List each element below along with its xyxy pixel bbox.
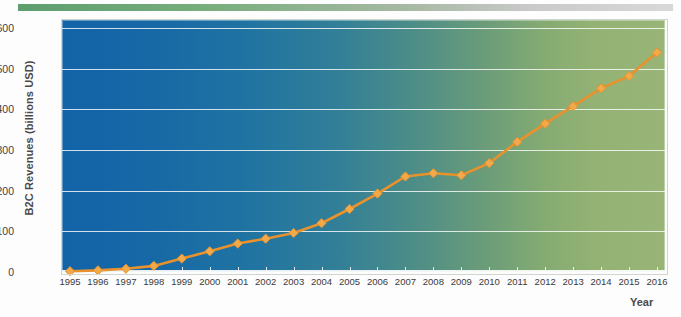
x-axis-title: Year (630, 296, 653, 308)
data-point-marker (289, 228, 298, 237)
x-axis-tick-label: 2014 (591, 276, 612, 287)
x-axis-tick-label: 1995 (59, 276, 80, 287)
x-axis-tick-label: 2002 (255, 276, 276, 287)
data-series-line (62, 20, 665, 272)
x-axis-tick-label: 2010 (479, 276, 500, 287)
y-axis-tick-label: 500 (0, 63, 14, 75)
x-axis-tick-label: 1997 (115, 276, 136, 287)
x-axis-tick-label: 2015 (618, 276, 639, 287)
x-axis-tick-label: 2008 (423, 276, 444, 287)
x-axis-tick-label: 2016 (646, 276, 667, 287)
data-point-marker (65, 267, 74, 276)
x-axis-tick-label: 2000 (199, 276, 220, 287)
x-axis-tick-label: 2006 (367, 276, 388, 287)
y-axis-tick-label: 300 (0, 144, 14, 156)
data-point-marker (177, 254, 186, 263)
x-axis-tick-label: 2012 (535, 276, 556, 287)
x-axis-tick-label: 2005 (339, 276, 360, 287)
y-axis-title: B2C Revenues (billions USD) (23, 13, 35, 263)
x-axis-tick-label: 2011 (507, 276, 527, 287)
x-axis-tick-labels: 1995199619971998199920002001200220032004… (62, 276, 665, 292)
x-axis-tick-label: 2001 (227, 276, 248, 287)
x-axis-tick-label: 1996 (87, 276, 108, 287)
data-point-marker (149, 261, 158, 270)
data-point-marker (121, 264, 130, 273)
x-axis-tick-label: 2004 (311, 276, 332, 287)
x-axis-tick-label: 2009 (451, 276, 472, 287)
data-point-marker (457, 171, 466, 180)
series-line (70, 53, 657, 272)
y-axis-tick-label: 0 (0, 266, 14, 278)
y-axis-tick-label: 400 (0, 103, 14, 115)
data-point-marker (261, 234, 270, 243)
data-point-marker (205, 247, 214, 256)
y-axis-tick-label: 600 (0, 22, 14, 34)
x-axis-tick-label: 2013 (563, 276, 584, 287)
data-point-marker (429, 169, 438, 178)
x-axis-tick-label: 1998 (143, 276, 164, 287)
x-axis-tick-label: 2003 (283, 276, 304, 287)
x-axis-tick-label: 2007 (395, 276, 416, 287)
plot-area (62, 20, 665, 272)
x-axis-tick-label: 1999 (171, 276, 192, 287)
data-point-marker (233, 239, 242, 248)
data-point-marker (317, 219, 326, 228)
y-axis-tick-label: 100 (0, 225, 14, 237)
data-point-marker (93, 266, 102, 275)
decorative-top-gradient-bar (18, 4, 673, 11)
y-axis-tick-label: 200 (0, 185, 14, 197)
chart-page: B2C Revenues (billions USD) 010020030040… (0, 0, 681, 317)
